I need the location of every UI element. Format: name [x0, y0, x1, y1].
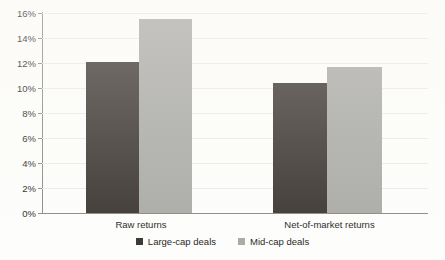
gridline-zero-baseline — [42, 213, 428, 214]
category-label-net-of-market-returns: Net-of-market returns — [262, 219, 397, 230]
y-tick-label-12: 12% — [0, 58, 36, 69]
bar-chart: 16% 14% 12% 10% 8% 6% 4% 2% 0% — [0, 0, 445, 260]
y-tick-label-0: 0% — [0, 208, 36, 219]
category-label-raw-returns: Raw returns — [86, 219, 196, 230]
bar-large-cap-raw-returns — [86, 62, 139, 213]
gridline-16 — [42, 13, 428, 14]
plot-area — [42, 13, 428, 213]
legend-item-mid-cap-deals: Mid-cap deals — [238, 236, 309, 247]
y-tick-label-6: 6% — [0, 133, 36, 144]
y-tick-label-14: 14% — [0, 33, 36, 44]
y-tick-label-8: 8% — [0, 108, 36, 119]
y-tick-label-4: 4% — [0, 158, 36, 169]
legend-swatch-icon-mid-cap — [238, 238, 245, 245]
bar-large-cap-net-of-market-returns — [273, 83, 327, 213]
y-tick-label-16: 16% — [0, 8, 36, 19]
legend-label-mid-cap-deals: Mid-cap deals — [250, 236, 309, 247]
gridline-14 — [42, 38, 428, 39]
legend-item-large-cap-deals: Large-cap deals — [136, 236, 216, 247]
bar-mid-cap-raw-returns — [139, 19, 192, 213]
y-tick-label-2: 2% — [0, 183, 36, 194]
legend-label-large-cap-deals: Large-cap deals — [148, 236, 216, 247]
y-tick-label-10: 10% — [0, 83, 36, 94]
bar-mid-cap-net-of-market-returns — [327, 67, 382, 213]
legend-swatch-icon-large-cap — [136, 238, 143, 245]
chart-legend: Large-cap deals Mid-cap deals — [0, 236, 445, 247]
